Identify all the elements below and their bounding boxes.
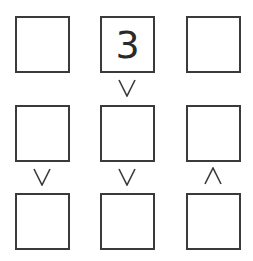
less-than-up-icon	[203, 167, 223, 185]
cell-r3-c2[interactable]	[100, 193, 155, 250]
cell-r3-c1[interactable]	[15, 193, 70, 250]
cell-r1-c3[interactable]	[186, 16, 241, 73]
cell-r2-c3[interactable]	[186, 105, 241, 162]
greater-than-down-icon	[32, 168, 52, 186]
greater-than-down-icon	[117, 79, 137, 97]
cell-r1-c2[interactable]: 3	[100, 16, 155, 73]
cell-r2-c1[interactable]	[15, 105, 70, 162]
cell-r3-c3[interactable]	[186, 193, 241, 250]
greater-than-down-icon	[117, 168, 137, 186]
cell-r1-c1[interactable]	[15, 16, 70, 73]
cell-r2-c2[interactable]	[100, 105, 155, 162]
